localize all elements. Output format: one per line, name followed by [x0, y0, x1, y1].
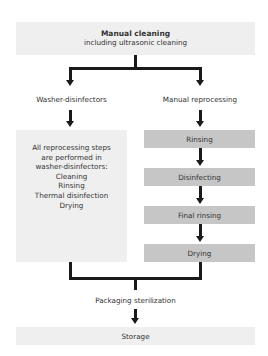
washer-line: washer-disinfectors:: [16, 162, 127, 172]
arrow-down-icon: [196, 236, 204, 242]
manual-cleaning-title: Manual cleaning: [16, 29, 255, 38]
washer-line: Thermal disinfection: [16, 191, 127, 201]
step-drying: Drying: [144, 244, 255, 262]
arrow-down-icon: [66, 121, 74, 127]
washer-line: Drying: [16, 201, 127, 211]
storage-box: Storage: [16, 327, 255, 345]
washer-line: Cleaning: [16, 172, 127, 182]
washer-line: are performed in: [16, 153, 127, 163]
arrow-down-icon: [196, 198, 204, 204]
step-rinsing: Rinsing: [144, 130, 255, 148]
arrow-down-icon: [196, 80, 204, 86]
manual-cleaning-subtitle: including ultrasonic cleaning: [16, 38, 255, 47]
arrow-down-icon: [196, 121, 204, 127]
washer-line: All reprocessing steps: [16, 143, 127, 153]
washer-line: Rinsing: [16, 181, 127, 191]
split-connector-left: [69, 67, 72, 81]
step-disinfecting: Disinfecting: [144, 168, 255, 186]
manual-cleaning-box: Manual cleaning including ultrasonic cle…: [16, 22, 255, 55]
merge-connector-stem: [134, 277, 137, 290]
arrow-down-icon: [131, 318, 139, 324]
washer-disinfectors-label: Washer-disinfectors: [16, 95, 127, 104]
manual-reprocessing-label: Manual reprocessing: [144, 95, 256, 104]
split-connector-right: [199, 67, 202, 81]
step-final-rinsing: Final rinsing: [144, 206, 255, 224]
packaging-sterilization-label: Packaging sterilization: [16, 296, 255, 305]
split-connector-bar: [69, 67, 202, 70]
washer-disinfector-box: All reprocessing steps are performed in …: [16, 130, 127, 262]
arrow-down-icon: [66, 80, 74, 86]
arrow-down-icon: [196, 160, 204, 166]
